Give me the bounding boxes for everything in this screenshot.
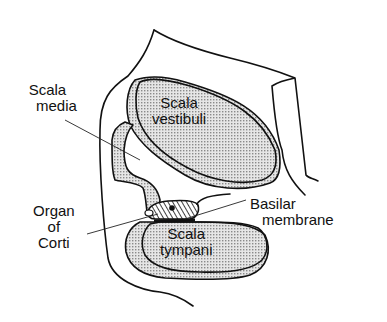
basilar-membrane-structure — [154, 220, 195, 221]
label-basilar-membrane: Basilar membrane — [250, 196, 334, 228]
label-line: vestibuli — [152, 111, 206, 127]
cochlea-diagram — [0, 0, 387, 322]
label-line: Corti — [33, 235, 75, 251]
label-line: Basilar — [250, 196, 334, 212]
label-line: Scala — [160, 226, 213, 242]
label-scala-media: Scala media — [18, 82, 77, 114]
label-line: membrane — [250, 212, 334, 228]
tectorial-connection — [197, 194, 230, 204]
label-line: tympani — [160, 242, 213, 258]
label-scala-vestibuli: Scala vestibuli — [152, 95, 206, 127]
hair-cell-dot — [169, 205, 175, 211]
label-line: Scala — [152, 95, 206, 111]
tunnel-of-corti — [145, 210, 153, 216]
label-line: media — [18, 98, 77, 114]
label-line: Organ — [33, 203, 75, 219]
label-line: of — [33, 219, 75, 235]
label-line: Scala — [18, 82, 77, 98]
reissners-membrane-region — [127, 77, 280, 189]
label-scala-tympani: Scala tympani — [160, 226, 213, 258]
label-organ-of-corti: Organ of Corti — [33, 203, 75, 251]
